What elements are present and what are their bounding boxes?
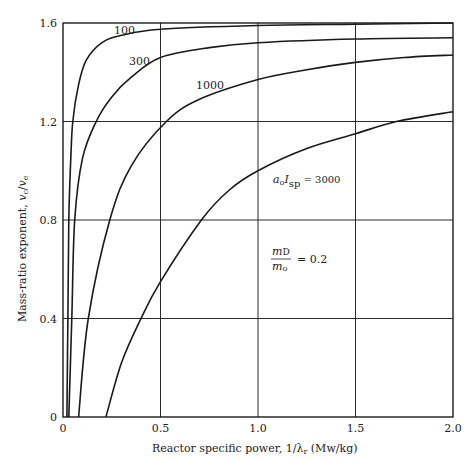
curve-1000 — [79, 55, 453, 417]
y-tick-label: 0.4 — [40, 313, 58, 326]
x-tick-label: 1.5 — [347, 422, 365, 435]
curve-label-100: 100 — [114, 24, 135, 37]
x-tick-label: 2.0 — [444, 422, 462, 435]
grid-lines — [63, 23, 453, 417]
x-axis-title-units: (Mw/kg) — [307, 442, 357, 455]
annot-eq: = 3000 — [300, 174, 340, 185]
curve-label-1000: 1000 — [196, 79, 224, 92]
mass-ratio-chart: 00.51.01.52.0 00.40.81.21.6 100 300 1000… — [0, 0, 474, 462]
frac-eq: = 0.2 — [297, 253, 327, 266]
curve-300 — [69, 38, 453, 417]
x-axis-title: Reactor specific power, 1/λr (Mw/kg) — [152, 442, 358, 456]
frac-num: m — [272, 245, 282, 258]
annotation-mass-fraction: mD mo = 0.2 — [271, 245, 327, 273]
frac-den-sub: o — [282, 264, 287, 273]
annotation-isp: aoIsp = 3000 — [273, 173, 340, 189]
y-axis-sub-den: e — [21, 175, 30, 180]
y-tick-label: 1.6 — [40, 17, 58, 30]
y-tick-labels: 00.40.81.21.6 — [40, 17, 58, 424]
frac-den: m — [272, 260, 282, 273]
x-axis-title-main: Reactor specific power, 1/λ — [152, 442, 304, 455]
x-tick-label: 0 — [60, 422, 67, 435]
x-tick-label: 0.5 — [152, 422, 170, 435]
x-tick-label: 1.0 — [249, 422, 267, 435]
y-tick-label: 1.2 — [40, 116, 58, 129]
annot-I-sub: sp — [289, 178, 301, 189]
y-tick-label: 0.8 — [40, 214, 58, 227]
svg-text:mo: mo — [272, 260, 287, 273]
frac-num-sub: D — [282, 247, 289, 257]
y-tick-label: 0 — [50, 411, 57, 424]
svg-text:mD: mD — [272, 245, 290, 258]
curve-label-300: 300 — [129, 55, 150, 68]
x-tick-labels: 00.51.01.52.0 — [60, 422, 462, 435]
y-axis-title: Mass-ratio exponent, vc/ve — [16, 175, 30, 322]
y-axis-title-main: Mass-ratio exponent, — [16, 201, 29, 322]
